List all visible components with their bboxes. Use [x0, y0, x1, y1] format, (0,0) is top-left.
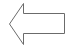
left-arrow-shape: [10, 4, 65, 45]
left-arrow-icon: [0, 0, 71, 47]
